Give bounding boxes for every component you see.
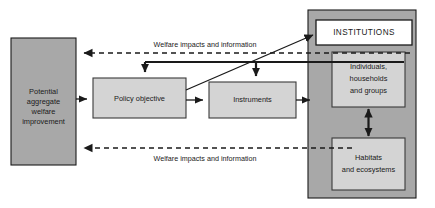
welfare-bottom-label: Welfare impacts and information xyxy=(154,154,257,163)
individuals-line3: and groups xyxy=(350,86,387,95)
individuals-line1: Individuals, xyxy=(350,62,387,71)
potential-welfare-line4: improvement xyxy=(22,117,65,126)
habitats-line2: and ecosystems xyxy=(342,165,396,174)
individuals-line2: households xyxy=(350,74,388,83)
instruments-label: Instruments xyxy=(233,95,272,104)
habitats-line1: Habitats xyxy=(355,153,382,162)
policy-objective-label: Policy objective xyxy=(114,94,165,103)
potential-welfare-line1: Potential xyxy=(29,87,58,96)
policy-welfare-diagram: Potential aggregate welfare improvement … xyxy=(0,0,435,208)
institutions-label: INSTITUTIONS xyxy=(333,28,395,37)
potential-welfare-line2: aggregate xyxy=(27,97,60,106)
welfare-top-label: Welfare impacts and information xyxy=(154,40,257,49)
potential-welfare-line3: welfare xyxy=(31,107,56,116)
diagram-root: Potential aggregate welfare improvement … xyxy=(0,0,435,208)
